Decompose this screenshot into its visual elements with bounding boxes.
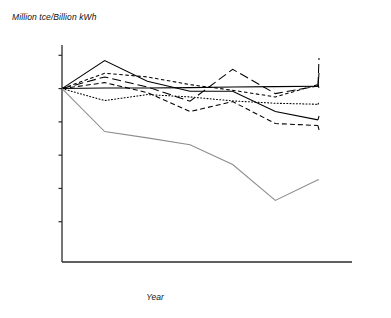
plot-area	[0, 0, 391, 318]
legend-leader-northwest	[318, 85, 319, 88]
legend-leader-lines	[318, 58, 319, 180]
series-line-northwest	[62, 73, 318, 97]
series-line-south	[62, 61, 318, 120]
legend-leader-south	[318, 116, 319, 120]
series-line-north	[62, 69, 318, 101]
line-chart: Million tce/Billion kWh Year	[0, 0, 391, 318]
series-line-central	[62, 89, 318, 201]
series-line-east	[62, 83, 318, 126]
series-line-hainan	[62, 86, 318, 88]
x-axis-title: Year	[0, 292, 310, 302]
legend-leader-northeast	[318, 102, 319, 104]
legend-leader-east	[318, 126, 319, 130]
series-lines	[62, 61, 318, 201]
legend-leader-hainan	[318, 73, 319, 86]
